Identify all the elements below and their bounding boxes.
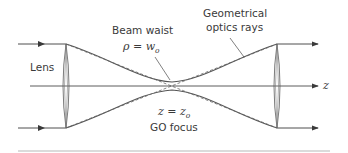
- geometrical-label-line1: Geometrical: [203, 7, 267, 19]
- arrow-icon: [38, 125, 45, 131]
- go-focus-label: GO focus: [150, 121, 198, 133]
- lens-label: Lens: [30, 61, 54, 73]
- waist-equation: ρ = wo: [122, 40, 160, 55]
- focus-equation: z = zo: [157, 105, 191, 120]
- rays-leader-line: [230, 38, 244, 57]
- waist-leader-line: [155, 57, 170, 80]
- z-axis-label: z: [322, 79, 329, 92]
- geometrical-label-line2: optics rays: [206, 21, 263, 33]
- arrow-icon: [38, 41, 45, 47]
- beam-waist-label: Beam waist: [112, 24, 173, 36]
- gaussian-beam-diagram: Lens Beam waist ρ = wo Geometrical optic…: [0, 0, 348, 153]
